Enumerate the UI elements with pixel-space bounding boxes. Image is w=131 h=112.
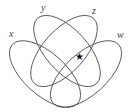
set-z-ellipse bbox=[19, 4, 109, 98]
set-w-ellipse bbox=[39, 29, 131, 112]
set-label-w: w bbox=[117, 30, 124, 40]
set-label-y: y bbox=[41, 3, 45, 13]
set-y-ellipse bbox=[22, 4, 112, 98]
venn-diagram bbox=[0, 0, 131, 112]
set-label-z: z bbox=[92, 6, 96, 16]
set-label-x: x bbox=[9, 29, 13, 39]
star-marker-icon: ★ bbox=[75, 52, 84, 62]
set-x-ellipse bbox=[0, 29, 92, 112]
